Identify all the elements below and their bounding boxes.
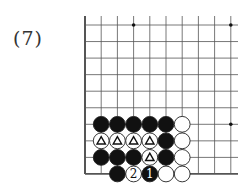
move-number: 1 <box>146 167 154 181</box>
black-stone <box>110 116 126 132</box>
black-stone <box>158 150 174 166</box>
black-stone <box>142 116 158 132</box>
star-point-icon <box>229 23 233 27</box>
black-stone <box>93 150 109 166</box>
star-point-icon <box>132 23 136 27</box>
black-stone <box>126 150 142 166</box>
move-number: 2 <box>130 167 138 181</box>
black-stone <box>93 116 109 132</box>
black-stone <box>110 150 126 166</box>
white-stone <box>174 166 190 182</box>
black-stone <box>158 133 174 149</box>
white-stone <box>174 133 190 149</box>
go-board: 21 <box>0 0 252 193</box>
white-stone <box>174 150 190 166</box>
white-stone <box>158 166 174 182</box>
white-stone <box>174 116 190 132</box>
black-stone <box>158 116 174 132</box>
star-point-icon <box>229 123 233 127</box>
black-stone <box>126 116 142 132</box>
black-stone <box>110 166 126 182</box>
